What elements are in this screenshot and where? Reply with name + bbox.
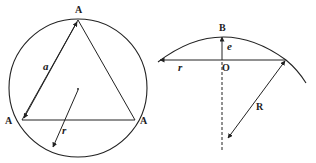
left-figure: A A A a r [5, 4, 148, 157]
radius-R-arrow [228, 61, 285, 138]
side-label: a [43, 60, 49, 72]
diagram-canvas: A A A a r B e O r R [0, 0, 316, 163]
geometry-diagram: A A A a r B e O r R [0, 0, 316, 163]
radius-r-arrow [53, 90, 78, 147]
sagitta-label: e [227, 40, 232, 52]
radius-label-R: R [256, 101, 264, 112]
top-point-label: B [219, 22, 226, 33]
vertex-label-left: A [5, 115, 13, 126]
center-dot [77, 88, 79, 90]
vertex-label-right: A [140, 115, 148, 126]
radius-label: r [62, 124, 67, 136]
center-label: O [222, 62, 230, 73]
right-figure: B e O r R [158, 22, 306, 152]
half-chord-label: r [178, 61, 183, 73]
vertex-label-top: A [75, 4, 83, 15]
equilateral-triangle [22, 20, 135, 120]
